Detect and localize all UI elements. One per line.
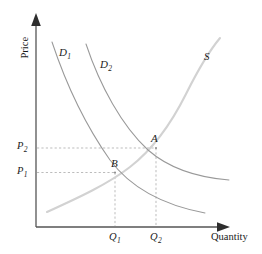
y-axis-title: Price bbox=[20, 37, 31, 59]
price-tick-p1-base: P bbox=[17, 165, 23, 176]
curve-label-d1-subscript: 1 bbox=[67, 52, 71, 61]
quantity-tick-q2-base: Q bbox=[150, 231, 158, 242]
curve-label-d2-subscript: 2 bbox=[108, 64, 112, 73]
point-marker-a bbox=[155, 147, 157, 149]
quantity-tick-q1-base: Q bbox=[109, 231, 117, 242]
quantity-tick-label-q1: Q1 bbox=[109, 232, 120, 243]
curve-label-d2: D2 bbox=[100, 59, 112, 70]
quantity-tick-q2-subscript: 2 bbox=[158, 236, 162, 245]
y-axis-arrow-icon bbox=[31, 13, 41, 26]
curve-label-s: S bbox=[204, 51, 210, 62]
point-label-a: A bbox=[151, 133, 158, 144]
x-axis-title: Quantity bbox=[211, 232, 248, 243]
point-marker-b bbox=[114, 172, 116, 174]
price-tick-p2-base: P bbox=[17, 140, 23, 151]
curve-label-d1: D1 bbox=[59, 47, 71, 58]
quantity-tick-q1-subscript: 1 bbox=[117, 236, 121, 245]
curve-label-d2-base: D bbox=[100, 58, 108, 70]
point-label-b: B bbox=[111, 158, 118, 169]
price-tick-p2-subscript: 2 bbox=[24, 145, 28, 154]
curve-label-s-base: S bbox=[204, 50, 210, 62]
price-tick-label-p2: P2 bbox=[17, 141, 27, 152]
equilibrium-points-group bbox=[114, 147, 157, 174]
curve-label-d1-base: D bbox=[59, 46, 67, 58]
price-tick-label-p1: P1 bbox=[17, 166, 27, 177]
supply-curve-s bbox=[47, 38, 220, 212]
chart-canvas bbox=[0, 0, 262, 254]
price-tick-p1-subscript: 1 bbox=[24, 170, 28, 179]
supply-curve-group bbox=[47, 38, 220, 212]
quantity-tick-label-q2: Q2 bbox=[150, 232, 161, 243]
supply-demand-figure: Price Quantity D1 D2 S A B P2 P1 Q1 Q2 bbox=[0, 0, 262, 254]
